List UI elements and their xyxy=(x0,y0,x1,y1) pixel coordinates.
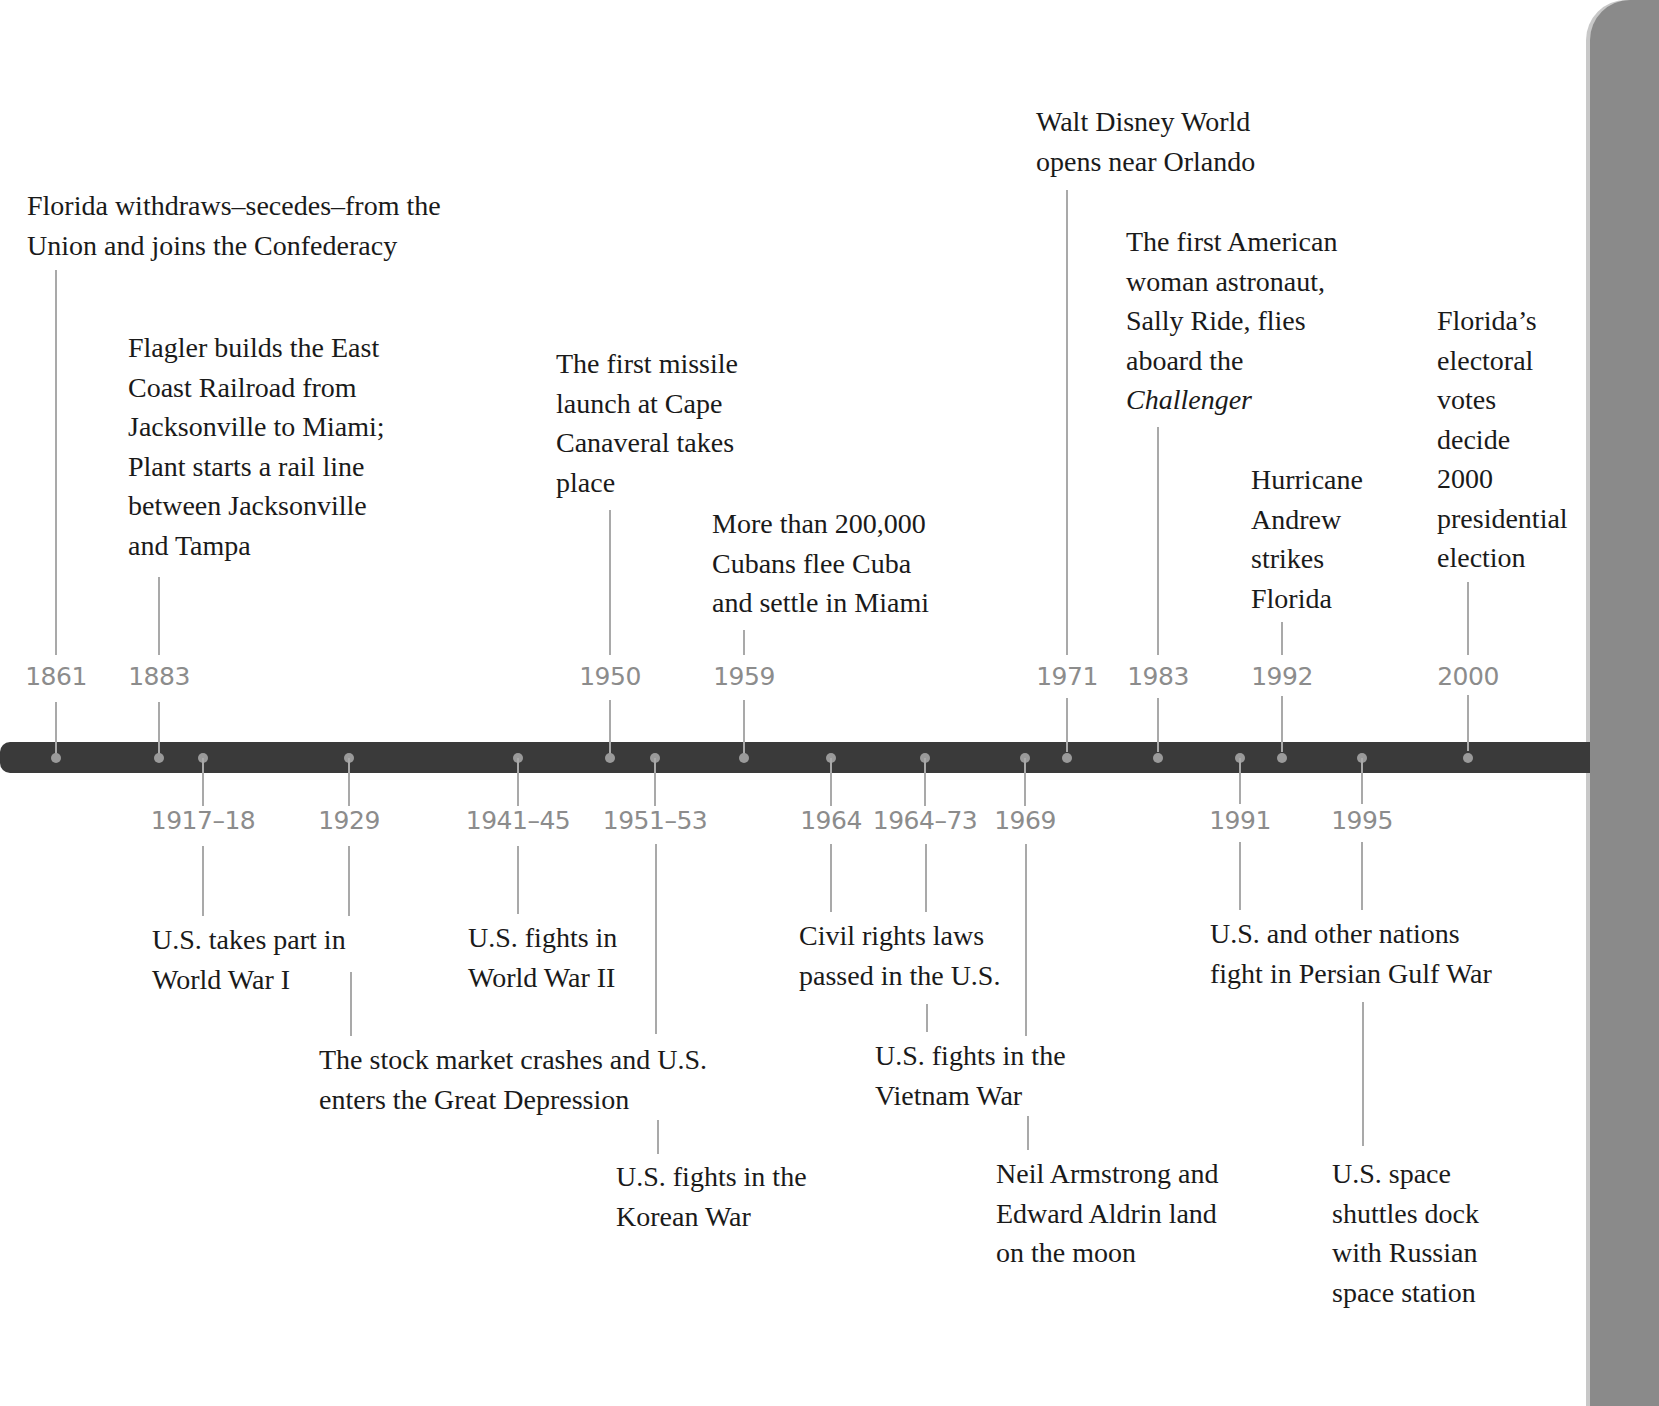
event-text-1941-45: U.S. fights in World War II xyxy=(468,918,617,997)
connector-1964-lower xyxy=(830,844,832,912)
connector-1991-upper xyxy=(1239,758,1241,804)
connector-2000-lower xyxy=(1467,695,1469,751)
page-edge-panel xyxy=(1590,0,1659,1406)
connector-1991-lower xyxy=(1239,842,1241,910)
connector-1941-45-lower xyxy=(517,846,519,914)
event-text-1971: Walt Disney World opens near Orlando xyxy=(1036,102,1255,181)
connector-1951-53-upper xyxy=(654,758,656,806)
connector-1951-53-lower xyxy=(657,1120,659,1154)
year-label-1995: 1995 xyxy=(1331,806,1393,835)
connector-1995-upper xyxy=(1361,758,1363,804)
year-label-1964: 1964 xyxy=(800,806,862,835)
event-text-1861: Florida withdraws–secedes–from the Union… xyxy=(27,186,441,265)
timeline-dot-1950 xyxy=(605,753,615,763)
connector-1929-upper xyxy=(348,758,350,806)
year-label-1883: 1883 xyxy=(128,662,190,691)
year-label-1861: 1861 xyxy=(25,662,87,691)
connector-1983-upper xyxy=(1157,427,1159,655)
year-label-1964-73: 1964–73 xyxy=(873,806,977,835)
connector-1929-lower xyxy=(350,972,352,1036)
event-text-1964-73: U.S. fights in the Vietnam War xyxy=(875,1036,1066,1115)
connector-1950-upper xyxy=(609,510,611,655)
connector-1861-upper xyxy=(55,270,57,655)
connector-1969-upper xyxy=(1024,758,1026,806)
event-text-1883: Flagler builds the East Coast Railroad f… xyxy=(128,328,385,565)
connector-1883-upper xyxy=(158,577,160,655)
event-text-1959: More than 200,000 Cubans flee Cuba and s… xyxy=(712,504,929,623)
event-text-1983: The first American woman astronaut, Sall… xyxy=(1126,222,1337,420)
event-text-1929: The stock market crashes and U.S. enters… xyxy=(319,1040,707,1119)
timeline-dot-2000 xyxy=(1463,753,1473,763)
event-text-1983-main: The first American woman astronaut, Sall… xyxy=(1126,226,1337,376)
year-label-1941-45: 1941–45 xyxy=(466,806,570,835)
connector-1992-upper xyxy=(1281,622,1283,655)
timeline-dot-1861 xyxy=(51,753,61,763)
connector-2000-upper xyxy=(1467,582,1469,655)
event-text-1995: U.S. space shuttles dock with Russian sp… xyxy=(1332,1154,1479,1312)
timeline-dot-1983 xyxy=(1153,753,1163,763)
event-text-1951-53: U.S. fights in the Korean War xyxy=(616,1157,807,1236)
event-text-1917-18: U.S. takes part in World War I xyxy=(152,920,346,999)
timeline-bar xyxy=(0,742,1590,773)
event-text-1991: U.S. and other nations fight in Persian … xyxy=(1210,914,1492,993)
connector-1964-73-mid xyxy=(925,844,927,912)
year-label-1983: 1983 xyxy=(1127,662,1189,691)
connector-1964-73-upper xyxy=(924,758,926,806)
connector-1959-lower xyxy=(743,700,745,754)
timeline-dot-1971 xyxy=(1062,753,1072,763)
connector-1861-lower xyxy=(55,702,57,754)
connector-1917-18-lower xyxy=(202,846,204,916)
connector-1971-upper xyxy=(1066,190,1068,655)
connector-1983-lower xyxy=(1157,698,1159,752)
event-text-1950: The first missile launch at Cape Canaver… xyxy=(556,344,738,502)
year-label-1959: 1959 xyxy=(713,662,775,691)
year-label-2000: 2000 xyxy=(1437,662,1499,691)
connector-1950-lower xyxy=(609,700,611,754)
timeline-dot-1992 xyxy=(1277,753,1287,763)
year-label-1951-53: 1951–53 xyxy=(603,806,707,835)
year-label-1971: 1971 xyxy=(1036,662,1098,691)
year-label-1917-18: 1917–18 xyxy=(151,806,255,835)
connector-1969-mid xyxy=(1025,844,1027,1036)
connector-1959-upper xyxy=(743,630,745,655)
year-label-1929: 1929 xyxy=(318,806,380,835)
year-label-1969: 1969 xyxy=(994,806,1056,835)
event-text-1969: Neil Armstrong and Edward Aldrin land on… xyxy=(996,1154,1218,1273)
connector-1883-lower xyxy=(158,702,160,754)
connector-1992-lower xyxy=(1281,696,1283,752)
year-label-1991: 1991 xyxy=(1209,806,1271,835)
connector-1929-mid xyxy=(348,846,350,916)
event-text-1992: Hurricane Andrew strikes Florida xyxy=(1251,460,1363,618)
connector-1941-45-upper xyxy=(517,758,519,806)
connector-1995-lower xyxy=(1362,1002,1364,1146)
event-text-1983-italic: Challenger xyxy=(1126,384,1252,415)
year-label-1992: 1992 xyxy=(1251,662,1313,691)
connector-1995-mid xyxy=(1361,842,1363,910)
connector-1964-upper xyxy=(830,758,832,806)
connector-1971-lower xyxy=(1066,698,1068,752)
event-text-2000: Florida’s electoral votes decide 2000 pr… xyxy=(1437,301,1568,578)
connector-1964-73-lower xyxy=(926,1004,928,1032)
timeline-dot-1883 xyxy=(154,753,164,763)
connector-1951-53-mid xyxy=(655,844,657,1034)
year-label-1950: 1950 xyxy=(579,662,641,691)
event-text-1964: Civil rights laws passed in the U.S. xyxy=(799,916,1000,995)
connector-1917-18-upper xyxy=(202,758,204,806)
timeline-dot-1959 xyxy=(739,753,749,763)
connector-1969-lower xyxy=(1027,1116,1029,1150)
